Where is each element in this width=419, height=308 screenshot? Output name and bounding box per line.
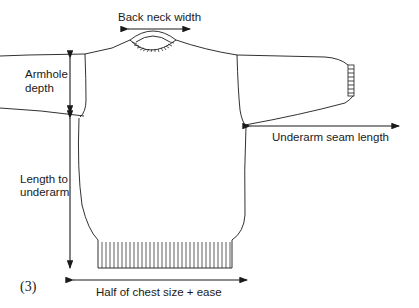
figure-number: (3) — [20, 279, 36, 295]
length-to-underarm-label-line1: Length to — [20, 172, 68, 186]
length-to-underarm-label-line2: underarm — [20, 185, 69, 199]
body-outline — [78, 118, 98, 240]
left-sleeve-outline — [0, 40, 130, 56]
armhole-depth-label-line2: depth — [25, 81, 54, 95]
underarm-seam-length-label: Underarm seam length — [272, 130, 389, 144]
neck-collar — [130, 31, 176, 40]
back-neck-width-label: Back neck width — [118, 10, 201, 24]
armhole-depth-label-line1: Armhole — [25, 67, 68, 81]
sweater-diagram — [0, 0, 419, 308]
half-chest-label: Half of chest size + ease — [96, 285, 222, 299]
